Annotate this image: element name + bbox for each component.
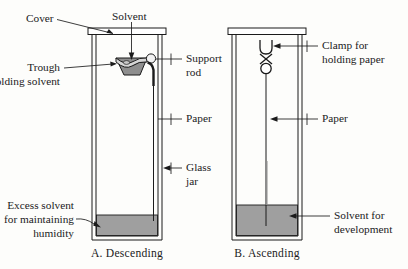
figure-canvas: Cover Solvent Trough holding solvent Sup… <box>0 0 408 269</box>
label-glass-jar-line1: Glass <box>186 161 211 173</box>
label-solvent-dev-line2: development <box>334 223 393 235</box>
label-trough-line2: holding solvent <box>0 75 61 87</box>
label-excess-line2: for maintaining <box>4 213 74 225</box>
leader-clamp-b <box>273 41 318 53</box>
paper-clamp-b <box>260 40 272 74</box>
label-excess-line3: humidity <box>33 227 74 239</box>
paper-bend-a <box>148 63 154 87</box>
label-solvent: Solvent <box>112 10 147 22</box>
label-paper-b: Paper <box>322 112 348 124</box>
label-clamp-line2: holding paper <box>322 53 385 65</box>
caption-panel-a: A. Descending <box>91 247 163 260</box>
cover-plate-a <box>88 28 166 35</box>
development-solvent-pool-b <box>237 205 298 236</box>
label-support-rod-line2: rod <box>186 66 201 78</box>
leader-paper-b <box>270 114 318 126</box>
leader-support-rod-a <box>156 54 182 66</box>
leader-solvent-b <box>289 213 330 218</box>
trough-meniscus-a <box>123 61 129 65</box>
excess-solvent-pool-a <box>97 215 158 236</box>
leader-cover-a <box>57 20 113 34</box>
clamp-ring <box>261 63 271 73</box>
label-cover: Cover <box>26 12 54 24</box>
label-solvent-dev-line1: Solvent for <box>334 209 385 221</box>
caption-panel-b: B. Ascending <box>234 247 299 260</box>
chromatography-figure: Cover Solvent Trough holding solvent Sup… <box>0 0 408 269</box>
label-excess-line1: Excess solvent <box>7 199 75 211</box>
label-support-rod-line1: Support <box>186 52 223 64</box>
panel-b-ascending: Clamp for holding paper Paper Solvent fo… <box>228 28 393 260</box>
solvent-trough-a <box>116 58 147 75</box>
leader-glass-jar-a <box>163 163 182 175</box>
cover-plate-b <box>228 28 306 35</box>
label-clamp-line1: Clamp for <box>322 39 368 51</box>
clamp-u-bend <box>260 40 272 54</box>
label-paper-a: Paper <box>186 112 212 124</box>
label-trough-line1: Trough <box>27 61 60 73</box>
label-glass-jar-line2: jar <box>185 175 198 187</box>
leader-trough-a <box>64 61 117 68</box>
panel-a-descending: Cover Solvent Trough holding solvent Sup… <box>0 10 223 260</box>
